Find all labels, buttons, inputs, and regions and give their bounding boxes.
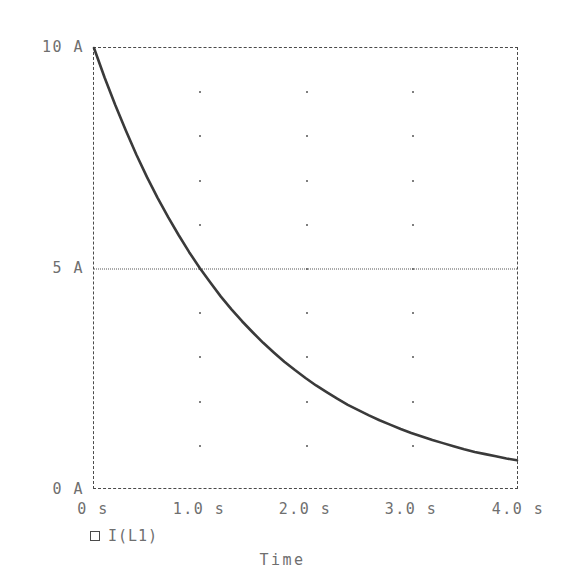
y-tick-label-0a: 0 A <box>8 480 84 498</box>
x-tick-label-3s: 3.0 s <box>385 500 438 518</box>
plot-area <box>93 47 518 489</box>
x-tick-label-4s: 4.0 s <box>492 500 545 518</box>
data-curve-il1 <box>94 48 517 488</box>
legend-label-il1: I(L1) <box>108 527 158 545</box>
legend[interactable]: I(L1) <box>90 527 158 545</box>
x-axis-title: Time <box>0 551 565 569</box>
x-tick-label-1s: 1.0 s <box>173 500 226 518</box>
x-tick-label-2s: 2.0 s <box>279 500 332 518</box>
y-tick-label-10a: 10 A <box>8 38 84 56</box>
open-square-icon <box>90 531 100 541</box>
transient-analysis-plot: 10 A 5 A 0 A 0 s 1.0 s 2.0 s 3.0 s 4.0 s… <box>0 0 565 580</box>
x-tick-label-0s: 0 s <box>77 500 109 518</box>
y-tick-label-5a: 5 A <box>8 259 84 277</box>
